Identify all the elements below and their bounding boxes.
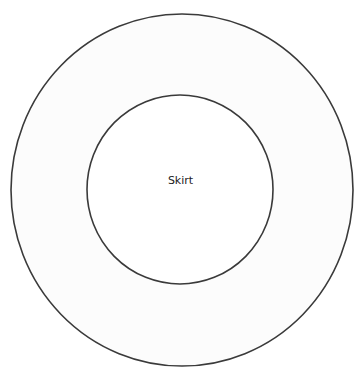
center-label: Skirt (0, 174, 361, 187)
inner-circle (87, 95, 273, 284)
